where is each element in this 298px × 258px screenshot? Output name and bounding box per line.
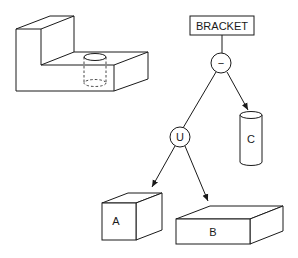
difference-symbol: −	[218, 57, 224, 69]
box-b-label: B	[209, 226, 216, 238]
union-symbol: U	[176, 131, 184, 143]
difference-operator-node: −	[211, 53, 231, 73]
cylinder-c-label: C	[247, 133, 255, 145]
root-node-bracket: BRACKET	[190, 16, 254, 35]
union-operator-node: U	[170, 127, 190, 147]
box-a-label: A	[112, 215, 120, 227]
root-label: BRACKET	[196, 20, 248, 32]
tree-edges	[152, 35, 248, 201]
csg-diagram: BRACKET − U C A B	[0, 0, 298, 258]
primitive-cylinder-c: C	[240, 112, 262, 166]
bracket-illustration	[16, 16, 148, 91]
primitive-box-b: B	[176, 206, 283, 244]
primitive-box-a: A	[102, 193, 162, 240]
